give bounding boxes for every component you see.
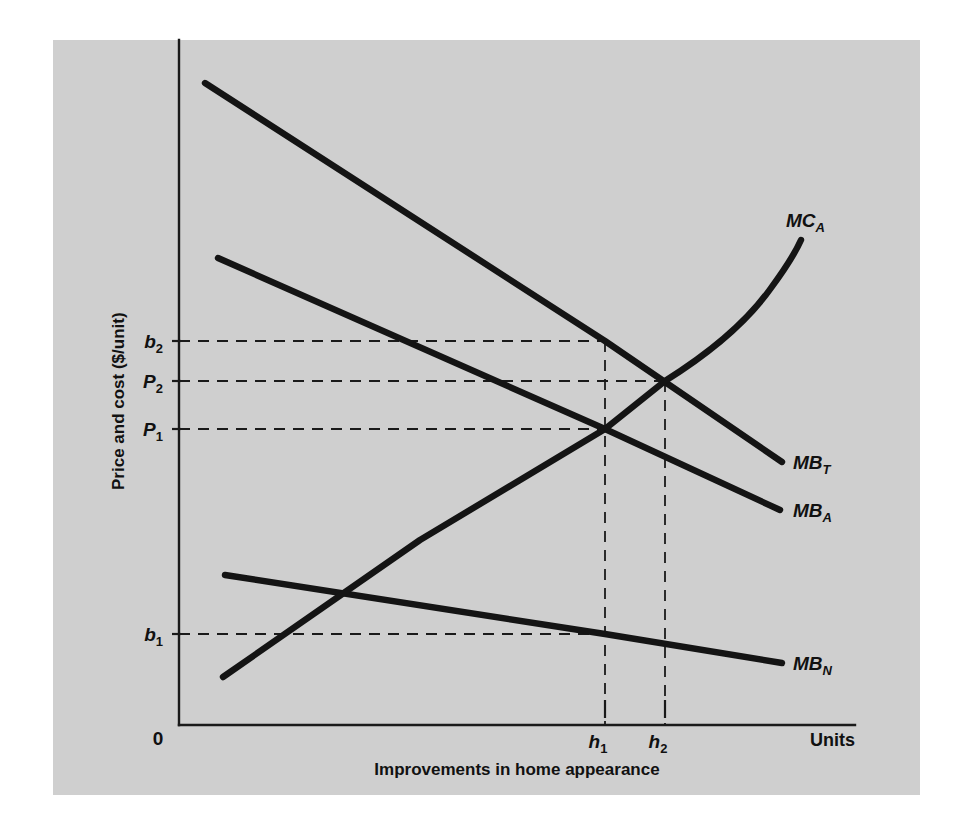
curve-label-MB-N: MBN xyxy=(793,653,833,678)
curve-MC-A xyxy=(223,240,801,677)
y-axis-title: Price and cost ($/unit) xyxy=(109,312,128,490)
economics-chart: Price and cost ($/unit) Improvements in … xyxy=(0,0,964,826)
curve-label-MB-T: MBT xyxy=(793,452,832,477)
curve-MB-T xyxy=(205,83,782,462)
figure-root: Price and cost ($/unit) Improvements in … xyxy=(0,0,964,826)
y-tick-labels-group: b2 P2 P1 b1 xyxy=(143,331,163,649)
y-tick-label-P2: P2 xyxy=(143,371,163,396)
curve-label-MC-A: MCA xyxy=(786,210,825,235)
curves-group xyxy=(205,83,801,677)
y-tick-label-b2: b2 xyxy=(144,331,163,356)
origin-label: 0 xyxy=(153,728,164,749)
curve-labels-group: MCA MBT MBA MBN xyxy=(786,210,833,678)
x-axis-units-label: Units xyxy=(810,730,855,750)
x-tick-labels-group: h1 h2 xyxy=(589,731,668,756)
guide-lines-group xyxy=(179,341,665,725)
y-tick-label-P1: P1 xyxy=(143,419,163,444)
x-tick-label-h1: h1 xyxy=(589,731,608,756)
curve-MB-A xyxy=(218,258,780,510)
x-tick-label-h2: h2 xyxy=(649,731,668,756)
y-axis-title-group: Price and cost ($/unit) xyxy=(109,312,128,490)
x-axis-title: Improvements in home appearance xyxy=(374,760,659,779)
y-tick-label-b1: b1 xyxy=(144,624,163,649)
curve-label-MB-A: MBA xyxy=(793,500,832,525)
